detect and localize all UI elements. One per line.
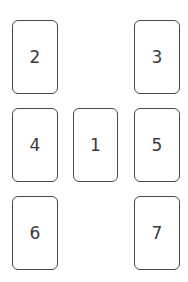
card-label: 7 bbox=[152, 223, 163, 243]
card-label: 6 bbox=[30, 223, 41, 243]
card-6: 6 bbox=[12, 196, 58, 270]
card-label: 5 bbox=[152, 135, 163, 155]
card-1: 1 bbox=[73, 108, 118, 182]
card-7: 7 bbox=[134, 196, 180, 270]
card-label: 1 bbox=[90, 135, 101, 155]
card-5: 5 bbox=[134, 108, 180, 182]
card-label: 3 bbox=[152, 47, 163, 67]
card-4: 4 bbox=[12, 108, 58, 182]
card-label: 4 bbox=[30, 135, 41, 155]
card-3: 3 bbox=[134, 20, 180, 94]
card-2: 2 bbox=[12, 20, 58, 94]
card-label: 2 bbox=[30, 47, 41, 67]
